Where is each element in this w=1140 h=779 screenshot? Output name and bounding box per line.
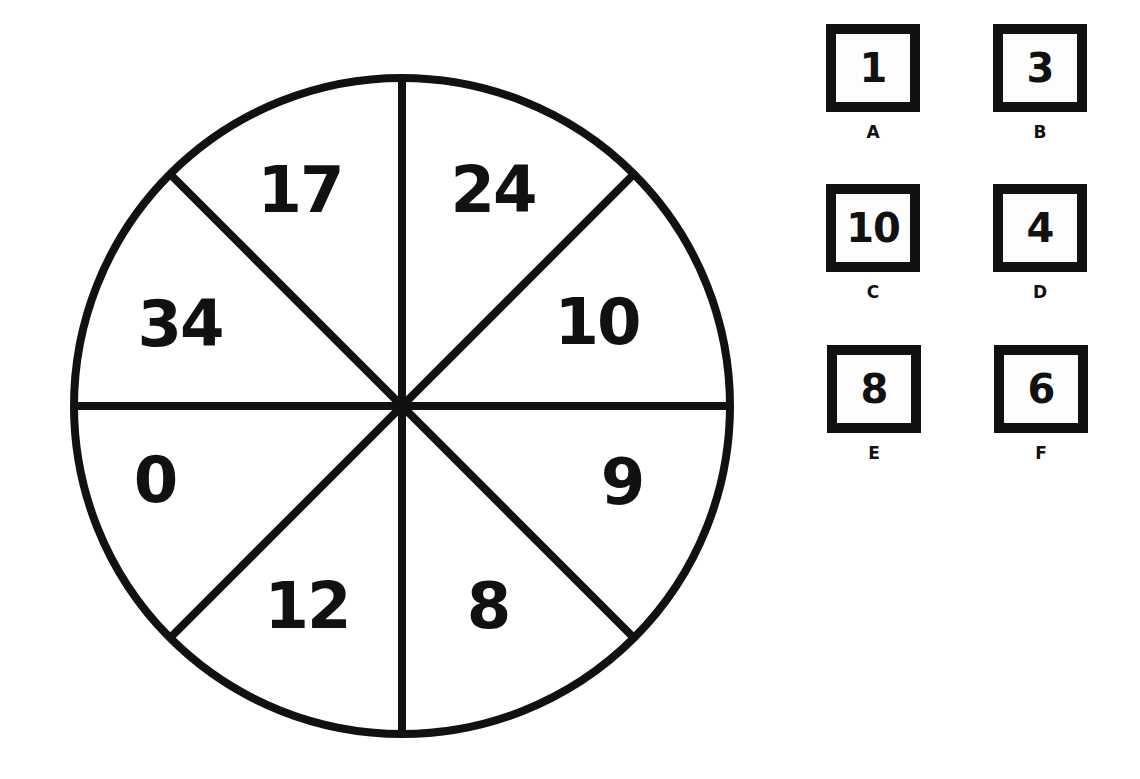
segment-value: 24 <box>450 153 535 227</box>
option-label: B <box>993 122 1087 142</box>
answer-option-a[interactable]: 1 A <box>826 24 920 142</box>
option-box: 3 <box>993 24 1087 112</box>
segment-value: 9 <box>601 445 644 519</box>
option-label: E <box>827 443 921 463</box>
segment-value: 12 <box>264 569 349 643</box>
segment-value: 34 <box>137 287 222 361</box>
option-label: A <box>826 122 920 142</box>
option-label: C <box>826 282 920 302</box>
answer-option-c[interactable]: 10 C <box>826 184 920 302</box>
answer-option-e[interactable]: 8 E <box>827 345 921 463</box>
option-box: 6 <box>994 345 1088 433</box>
number-wheel: 17 24 10 9 8 12 0 34 <box>0 0 760 779</box>
option-box: 4 <box>993 184 1087 272</box>
segment-value: 10 <box>554 285 639 359</box>
option-box: 1 <box>826 24 920 112</box>
option-box: 8 <box>827 345 921 433</box>
segment-value: 0 <box>134 443 177 517</box>
segment-value: 17 <box>257 153 342 227</box>
option-label: F <box>994 443 1088 463</box>
wheel-hub <box>393 397 411 415</box>
answer-option-b[interactable]: 3 B <box>993 24 1087 142</box>
answer-option-d[interactable]: 4 D <box>993 184 1087 302</box>
answer-option-f[interactable]: 6 F <box>994 345 1088 463</box>
segment-value: 8 <box>467 569 510 643</box>
option-box: 10 <box>826 184 920 272</box>
option-label: D <box>993 282 1087 302</box>
